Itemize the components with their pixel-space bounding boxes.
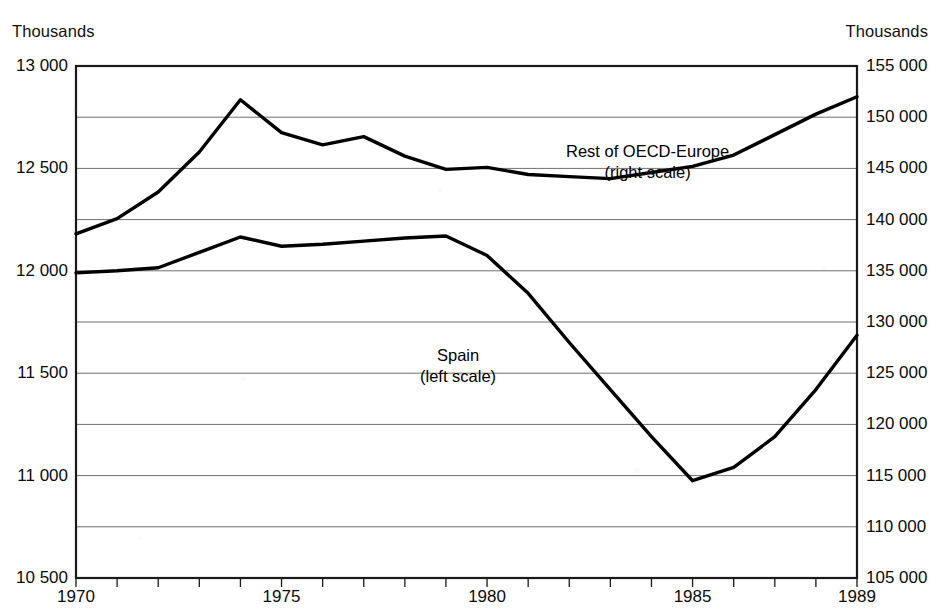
right-axis-tick-label: 140 000 [866,211,927,228]
plot-area [0,0,936,611]
right-axis-tick-label: 155 000 [866,57,927,74]
series-paths-group [76,97,857,481]
right-axis-tick-label: 105 000 [866,569,927,586]
x-axis-tick-label: 1970 [57,588,95,605]
right-axis-tick-label: 130 000 [866,313,927,330]
left-axis-tick-label: 10 500 [16,569,68,586]
left-axis-tick-label: 11 500 [17,364,68,381]
spain-annotation-name: Spain [420,345,496,366]
x-axis-tick-label: 1975 [263,588,301,605]
left-axis-tick-label: 12 000 [16,262,68,279]
right-axis-tick-label: 110 000 [866,518,926,535]
left-axis-unit-label: Thousands [12,22,95,41]
right-axis-tick-label: 115 000 [866,467,926,484]
x-axis-tick-label: 1980 [468,588,506,605]
right-axis-tick-label: 120 000 [866,415,927,432]
right-axis-unit-label: Thousands [845,22,928,41]
right-axis-tick-label: 135 000 [866,262,927,279]
series-annotation-oecd-europe: Rest of OECD-Europe (right scale) [566,141,729,183]
x-axis-tick-label: 1989 [838,588,876,605]
x-tick-marks-group [76,578,857,587]
oecd-annotation-scale: (right scale) [566,162,729,183]
right-axis-tick-label: 150 000 [866,108,927,125]
line-chart: Thousands Thousands 13 00012 50012 00011… [0,0,936,611]
left-axis-tick-label: 12 500 [16,159,68,176]
series-annotation-spain: Spain (left scale) [420,345,496,387]
gridlines-group [76,117,857,527]
right-axis-tick-label: 125 000 [866,364,927,381]
oecd-annotation-name: Rest of OECD-Europe [566,141,729,162]
right-axis-tick-label: 145 000 [866,159,927,176]
spain-annotation-scale: (left scale) [420,366,496,387]
x-axis-tick-label: 1985 [674,588,712,605]
left-axis-tick-label: 11 000 [17,467,68,484]
left-axis-tick-label: 13 000 [16,57,68,74]
